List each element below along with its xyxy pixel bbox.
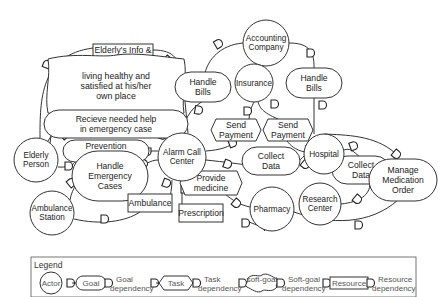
goal-handle-bills-2[interactable]: HandleBills <box>286 68 342 98</box>
node-label: Bills <box>195 87 211 97</box>
node-label: Send <box>226 120 246 130</box>
node-label: Station <box>39 213 65 222</box>
node-label: Prescription <box>178 208 224 218</box>
dependency-link <box>205 38 243 73</box>
dependency-d-icon <box>101 215 109 223</box>
dependency-d-icon <box>194 106 203 115</box>
dependency-d-icon <box>307 49 315 57</box>
node-label: Data <box>262 161 280 171</box>
diagram-nodes: Elderly's Info &Vital signsliving health… <box>14 20 437 235</box>
node-label: Insurance <box>236 79 272 88</box>
node-label: Emergency <box>88 171 132 181</box>
node-label: Center <box>170 157 195 166</box>
dependency-link <box>258 100 279 119</box>
node-label: Handle <box>300 73 327 83</box>
svg-text:dependency: dependency <box>282 284 326 293</box>
node-label: Company <box>248 43 284 52</box>
node-label: Elderly's Info & <box>94 45 151 55</box>
actor-hospital[interactable]: Hospital <box>304 134 344 174</box>
dependency-link <box>289 43 315 69</box>
dependency-d-icon <box>323 279 331 287</box>
istar-diagram: Elderly's Info &Vital signsliving health… <box>0 0 448 297</box>
dependency-d-icon <box>223 159 233 169</box>
svg-text:Soft-goal: Soft-goal <box>288 275 320 284</box>
node-label: Accounting <box>246 34 287 43</box>
svg-text:Resource: Resource <box>332 279 367 288</box>
dependency-link <box>341 183 370 205</box>
node-label: Collect <box>258 151 285 161</box>
goal-handle-bills-1[interactable]: HandleBills <box>175 72 231 102</box>
svg-text:dependency: dependency <box>198 284 242 293</box>
node-label: Send <box>278 120 298 130</box>
softgoal-living-healthy[interactable]: living healthy andsatisfied at his/herow… <box>47 54 186 118</box>
actor-pharmacy[interactable]: Pharmacy <box>250 187 294 231</box>
dependency-link <box>74 212 140 223</box>
task-send-payment-2[interactable]: SendPayment <box>263 119 313 141</box>
svg-text:Task: Task <box>204 275 221 284</box>
actor-research-center[interactable]: ResearchCenter <box>299 183 341 225</box>
resource-prescription[interactable]: Prescription <box>178 204 224 222</box>
node-label: Center <box>308 204 333 213</box>
dependency-d-icon <box>213 38 223 49</box>
goal-manage-med[interactable]: ManageMedicationOrder <box>369 159 437 201</box>
node-label: Recieve needed help <box>76 114 157 124</box>
node-label: Prevention <box>85 141 126 151</box>
node-label: Pharmacy <box>254 205 292 214</box>
actor-insurance[interactable]: Insurance <box>235 64 273 102</box>
svg-text:Goal: Goal <box>116 275 133 284</box>
dependency-link <box>244 102 254 119</box>
node-label: Hospital <box>309 150 339 159</box>
dependency-d-icon <box>352 194 363 205</box>
svg-text:dependency: dependency <box>372 284 416 293</box>
dependency-d-icon <box>271 100 279 108</box>
node-label: Elderly <box>23 151 49 160</box>
node-label: Payment <box>271 130 306 140</box>
actor-accounting[interactable]: AccountingCompany <box>243 20 289 66</box>
legend-resource: Resource <box>323 277 368 289</box>
node-label: Payment <box>219 130 254 140</box>
node-label: Provide <box>196 173 225 183</box>
node-label: Medication <box>382 175 424 185</box>
node-label: Cases <box>98 181 122 191</box>
resource-ambulance[interactable]: Ambulance <box>128 194 172 212</box>
node-label: Collect <box>348 160 375 170</box>
actor-ambulance-station[interactable]: AmbulanceStation <box>30 191 74 235</box>
legend: Legend ActorGoalGoaldependencyTaskTaskde… <box>31 257 416 297</box>
node-label: Manage <box>387 165 418 175</box>
legend-title: Legend <box>34 260 63 270</box>
svg-text:Actor: Actor <box>42 279 61 288</box>
node-label: Research <box>302 195 337 204</box>
goal-receive-help[interactable]: Recieve needed helpin emergency case <box>44 110 188 138</box>
node-label: living healthy and <box>82 71 150 81</box>
node-label: Data <box>352 170 370 180</box>
node-label: Alarm Call <box>163 148 201 157</box>
dependency-d-icon <box>162 178 172 188</box>
node-label: in emergency case <box>80 124 152 134</box>
dependency-d-icon <box>355 221 363 229</box>
dependency-d-icon <box>319 101 327 109</box>
node-label: medicine <box>194 183 229 193</box>
dependency-link <box>344 141 361 158</box>
svg-text:soft-goal: soft-goal <box>247 275 278 284</box>
dependency-d-icon <box>65 162 73 170</box>
legend-actor: Actor <box>40 272 62 294</box>
goal-collect-data-1[interactable]: CollectData <box>242 147 300 175</box>
svg-text:Task: Task <box>168 279 185 288</box>
dependency-d-icon <box>242 219 250 227</box>
task-send-payment-1[interactable]: SendPayment <box>211 119 261 141</box>
actor-elderly-person[interactable]: ElderlyPerson <box>14 138 58 182</box>
node-label: Ambulance <box>32 204 73 213</box>
svg-text:dependency: dependency <box>110 284 154 293</box>
node-label: own place <box>96 91 136 101</box>
node-label: satisfied at his/her <box>81 81 152 91</box>
svg-text:Resource: Resource <box>378 275 413 284</box>
actor-alarm-center[interactable]: Alarm CallCenter <box>158 133 206 181</box>
node-label: Handle <box>96 161 123 171</box>
svg-text:Goal: Goal <box>83 279 100 288</box>
node-label: Person <box>23 160 49 169</box>
dependency-link <box>225 194 250 209</box>
node-label: Handle <box>189 77 216 87</box>
dependency-link <box>314 97 327 134</box>
node-label: Order <box>392 185 414 195</box>
node-label: Ambulance <box>129 198 172 208</box>
